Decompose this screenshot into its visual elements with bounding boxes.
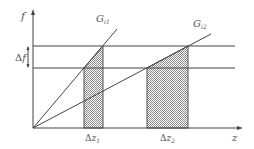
line-g-i1-label: Gi1 — [96, 13, 110, 25]
y-axis-label: f — [20, 10, 27, 23]
y-axis-arrow-icon — [31, 9, 35, 15]
delta-f-arrow-up-icon — [27, 46, 30, 50]
delta-f-arrow-down-icon — [27, 64, 30, 68]
line-g-i1 — [33, 29, 117, 128]
x-axis-label: z — [231, 132, 238, 143]
gain-frequency-diagram: f z Δf Gi1 Gi2 Δz1 Δz2 — [0, 0, 254, 149]
delta-f-label: Δf — [15, 52, 28, 63]
hatched-region-1 — [84, 46, 103, 128]
hatched-region-2 — [147, 46, 188, 128]
x-axis-arrow-icon — [237, 126, 243, 130]
region-1-label: Δz1 — [85, 133, 100, 144]
line-g-i2-label: Gi2 — [193, 18, 207, 30]
region-2-label: Δz2 — [160, 133, 175, 144]
